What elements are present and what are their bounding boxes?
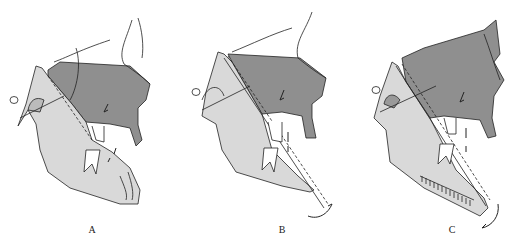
upper-molar [92, 126, 104, 142]
skull-line [232, 28, 292, 52]
panel-a: A [0, 0, 172, 249]
rotation-arc-arrow-icon [308, 204, 332, 217]
porion-circle [10, 97, 18, 104]
panel-label-c: C [442, 224, 462, 235]
porion-circle [372, 87, 380, 94]
skull-line [54, 40, 110, 62]
panel-b: B [172, 0, 344, 249]
diagram-a [0, 0, 172, 249]
panel-c: C [344, 0, 516, 249]
nose-line [138, 18, 143, 58]
porion-circle [192, 89, 200, 96]
upper-molar [268, 122, 282, 142]
panel-label-b: B [272, 224, 292, 235]
diagram-c [344, 0, 516, 249]
diagram-b [172, 0, 344, 249]
panel-label-a: A [82, 224, 102, 235]
